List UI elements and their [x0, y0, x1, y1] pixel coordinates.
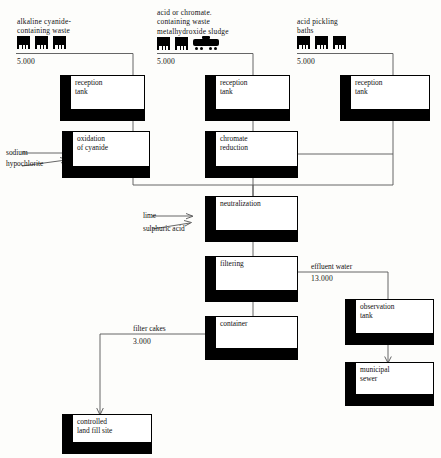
process-flow-diagram: alkaline cyanide- containing waste 5.000…: [0, 0, 441, 458]
stream-label-filter-cakes: filter cakes: [133, 324, 166, 335]
source-quantity-alkaline: 5.000: [17, 57, 35, 66]
node-face: reception tank: [215, 75, 290, 110]
bin-icon: [53, 36, 66, 49]
node-chromate-reduction[interactable]: chromate reduction: [205, 131, 298, 178]
bin-icon: [17, 36, 30, 49]
node-reception-tank-3[interactable]: reception tank: [340, 75, 430, 121]
node-face: neutralization: [215, 196, 298, 231]
node-face: reception tank: [350, 75, 430, 110]
node-label: reception tank: [75, 78, 103, 97]
node-label: controlled land fill site: [77, 417, 112, 436]
node-label: filtering: [220, 259, 244, 268]
node-reception-tank-1[interactable]: reception tank: [60, 75, 145, 121]
source-icons-alkaline: [17, 36, 66, 49]
node-face: container: [215, 316, 298, 349]
node-label: neutralization: [220, 199, 261, 208]
node-reception-tank-2[interactable]: reception tank: [205, 75, 290, 121]
stream-value-effluent-water: 13.000: [311, 274, 333, 283]
source-quantity-pickling: 5.000: [297, 57, 315, 66]
node-neutralization[interactable]: neutralization: [205, 196, 298, 242]
node-observation-tank[interactable]: observation tank: [345, 299, 434, 345]
reagent-label-sodium-hypochlorite: sodium hypochlorite: [6, 148, 43, 169]
node-face: reception tank: [70, 75, 145, 110]
node-label: container: [220, 319, 248, 328]
stream-value-filter-cakes: 3.000: [133, 337, 151, 346]
node-face: chromate reduction: [215, 131, 298, 167]
source-caption-alkaline: alkaline cyanide- containing waste: [17, 17, 71, 36]
node-face: observation tank: [355, 299, 434, 334]
node-label: municipal sewer: [360, 365, 390, 384]
source-icons-acid-chromate: [157, 36, 219, 50]
node-label: oxidation of cyanide: [77, 134, 108, 153]
node-filtering[interactable]: filtering: [205, 256, 298, 302]
reagent-label-sulphuric-acid: sulphuric acid: [143, 224, 185, 235]
source-icons-pickling: [297, 36, 346, 49]
stream-label-effluent-water: effluent water: [311, 262, 352, 273]
reagent-label-lime: lime: [143, 211, 156, 222]
bin-icon: [157, 37, 170, 50]
source-caption-pickling: acid pickling baths: [297, 17, 338, 36]
node-face: filtering: [215, 256, 298, 291]
node-oxidation-of-cyanide[interactable]: oxidation of cyanide: [62, 131, 150, 178]
source-quantity-acid-chromate: 5.000: [157, 57, 175, 66]
tanker-truck-icon: [193, 36, 219, 50]
bin-icon: [297, 36, 310, 49]
bin-icon: [333, 36, 346, 49]
node-label: observation tank: [360, 302, 394, 321]
node-face: municipal sewer: [355, 362, 434, 395]
bin-icon: [175, 37, 188, 50]
node-label: reception tank: [220, 78, 248, 97]
node-municipal-sewer[interactable]: municipal sewer: [345, 362, 434, 406]
source-caption-acid-chromate: acid or chromate. containing waste metal…: [157, 8, 229, 36]
node-container[interactable]: container: [205, 316, 298, 360]
node-face: controlled land fill site: [72, 414, 152, 443]
bin-icon: [315, 36, 328, 49]
node-label: reception tank: [355, 78, 383, 97]
bin-icon: [35, 36, 48, 49]
node-controlled-land-fill-site[interactable]: controlled land fill site: [62, 414, 152, 454]
node-face: oxidation of cyanide: [72, 131, 150, 167]
node-label: chromate reduction: [220, 134, 248, 153]
